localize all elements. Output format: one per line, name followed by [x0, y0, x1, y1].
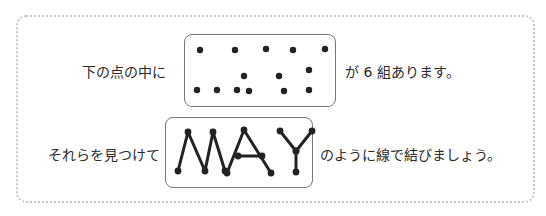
- puzzle-dot: [232, 47, 238, 53]
- puzzle-dot: [197, 47, 203, 53]
- puzzle-dots: [194, 46, 328, 94]
- drawing-layer: [0, 0, 546, 216]
- puzzle-dot: [194, 87, 200, 93]
- puzzle-dot: [234, 87, 240, 93]
- puzzle-dot: [290, 47, 296, 53]
- puzzle-dot: [263, 46, 269, 52]
- puzzle-dot: [241, 73, 247, 79]
- puzzle-dot: [214, 87, 220, 93]
- puzzle-dot: [306, 87, 312, 93]
- puzzle-dot: [306, 67, 312, 73]
- puzzle-dot: [281, 88, 287, 94]
- puzzle-dot: [322, 46, 328, 52]
- puzzle-dot: [276, 73, 282, 79]
- example-may-lines: [175, 127, 316, 177]
- puzzle-dot: [246, 88, 252, 94]
